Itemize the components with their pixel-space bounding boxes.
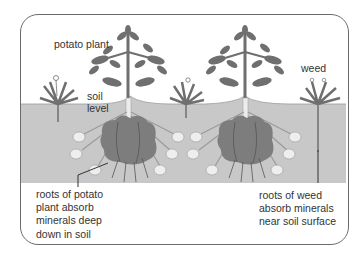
label-line: minerals deep <box>36 214 103 227</box>
label-line: roots of potato <box>36 188 103 201</box>
label-soil-level: soil level <box>87 90 109 114</box>
label-weed: weed <box>301 62 326 75</box>
label-line: down in soil <box>36 228 103 241</box>
label-line: absorb minerals <box>259 202 336 215</box>
label-level-line: level <box>87 102 109 114</box>
label-line: near soil surface <box>259 215 336 228</box>
label-soil-line: soil <box>87 90 109 102</box>
label-roots-potato: roots of potato plant absorb minerals de… <box>36 188 103 241</box>
label-line: roots of weed <box>259 189 336 202</box>
label-roots-weed: roots of weed absorb minerals near soil … <box>259 189 336 229</box>
label-line: plant absorb <box>36 201 103 214</box>
label-potato-plant: potato plant <box>54 38 109 51</box>
